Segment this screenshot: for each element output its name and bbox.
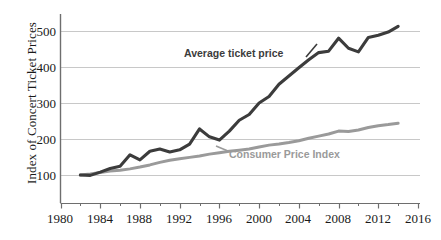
x-axis-ticks [62, 204, 419, 209]
annotation-consumer-price-index: Consumer Price Index [229, 148, 340, 160]
annotation-average-ticket-price: Average ticket price [184, 47, 283, 59]
chart-figure: Index of Concert Ticket Prices 500 400 3… [0, 0, 441, 240]
annotation-leader-cpi [216, 146, 228, 151]
plot-area [0, 0, 441, 240]
